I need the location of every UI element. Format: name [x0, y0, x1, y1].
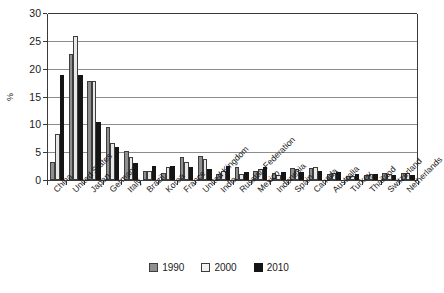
bar-group — [196, 14, 214, 180]
y-axis-tick-label-wrap: 5 — [0, 147, 41, 157]
bar-group — [343, 14, 361, 180]
y-axis-tick-label: 20 — [17, 64, 41, 74]
y-axis-tick-label: 0 — [17, 175, 41, 185]
bar-group — [177, 14, 195, 180]
y-axis-tick-label: 25 — [17, 36, 41, 46]
y-axis-tick-label-wrap: 25 — [0, 36, 41, 46]
bar-group — [122, 14, 140, 180]
y-axis-tick-label: 15 — [17, 92, 41, 102]
y-axis-tick-label: 10 — [17, 119, 41, 129]
bar-group — [399, 14, 417, 180]
chart-legend: 199020002010 — [0, 262, 438, 273]
bar-group — [140, 14, 158, 180]
bar-group — [214, 14, 232, 180]
bar-group — [380, 14, 398, 180]
legend-item-2000: 2000 — [201, 262, 236, 273]
bar-group — [362, 14, 380, 180]
y-axis-tick-label-wrap: 10 — [0, 119, 41, 129]
legend-item-2010: 2010 — [254, 262, 289, 273]
y-axis-tick-label-wrap: 20 — [0, 64, 41, 74]
y-axis-tick-label-wrap: 0 — [0, 175, 41, 185]
y-axis-tick-label: 5 — [17, 147, 41, 157]
bar-group — [48, 14, 66, 180]
y-axis-tick-label-wrap: 30 — [0, 8, 41, 18]
legend-label-2000: 2000 — [214, 262, 236, 273]
legend-swatch-2010 — [254, 263, 263, 272]
bar-group — [306, 14, 324, 180]
legend-swatch-2000 — [201, 263, 210, 272]
bar-group — [325, 14, 343, 180]
bar-2010-united-states — [78, 75, 83, 180]
legend-item-1990: 1990 — [149, 262, 184, 273]
legend-label-2010: 2010 — [267, 262, 289, 273]
bar-group — [66, 14, 84, 180]
x-axis-tick — [47, 181, 48, 185]
legend-label-1990: 1990 — [162, 262, 184, 273]
bar-group — [251, 14, 269, 180]
bar-group — [288, 14, 306, 180]
legend-swatch-1990 — [149, 263, 158, 272]
bar-group — [159, 14, 177, 180]
bar-2010-china — [60, 75, 65, 180]
y-axis-tick-label: 30 — [17, 8, 41, 18]
y-axis-tick-label-wrap: 15 — [0, 92, 41, 102]
